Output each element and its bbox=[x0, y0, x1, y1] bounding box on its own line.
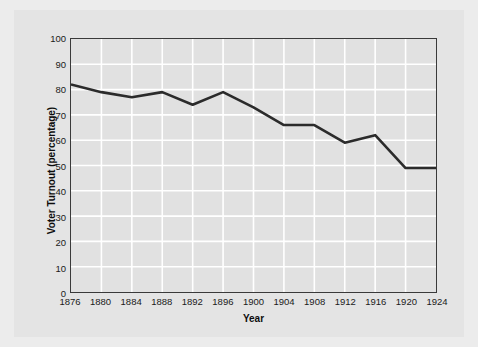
y-tick-label: 70 bbox=[55, 109, 66, 120]
x-axis-tick-labels: 1876188018841888189218961900190419081912… bbox=[70, 296, 437, 312]
x-tick-label: 1896 bbox=[212, 296, 233, 307]
chart-figure: 0102030405060708090100 18761880188418881… bbox=[14, 10, 464, 337]
x-tick-label: 1876 bbox=[59, 296, 80, 307]
x-tick-label: 1908 bbox=[304, 296, 325, 307]
data-line-series bbox=[71, 39, 436, 292]
plot-area bbox=[70, 38, 437, 293]
y-tick-label: 50 bbox=[55, 160, 66, 171]
x-tick-label: 1900 bbox=[243, 296, 264, 307]
y-tick-label: 30 bbox=[55, 211, 66, 222]
y-tick-label: 100 bbox=[50, 33, 66, 44]
y-tick-label: 60 bbox=[55, 135, 66, 146]
x-tick-label: 1880 bbox=[90, 296, 111, 307]
x-tick-label: 1920 bbox=[396, 296, 417, 307]
y-tick-label: 20 bbox=[55, 237, 66, 248]
x-tick-label: 1892 bbox=[182, 296, 203, 307]
x-tick-label: 1912 bbox=[335, 296, 356, 307]
x-tick-label: 1924 bbox=[426, 296, 447, 307]
y-tick-label: 10 bbox=[55, 262, 66, 273]
data-line bbox=[71, 85, 436, 168]
x-tick-label: 1884 bbox=[121, 296, 142, 307]
x-axis-title: Year bbox=[70, 313, 437, 324]
x-tick-label: 1916 bbox=[365, 296, 386, 307]
x-tick-label: 1904 bbox=[274, 296, 295, 307]
y-tick-label: 80 bbox=[55, 84, 66, 95]
y-tick-label: 40 bbox=[55, 186, 66, 197]
y-axis-title: Voter Turnout (percentage) bbox=[46, 71, 57, 271]
y-tick-label: 90 bbox=[55, 58, 66, 69]
x-tick-label: 1888 bbox=[151, 296, 172, 307]
